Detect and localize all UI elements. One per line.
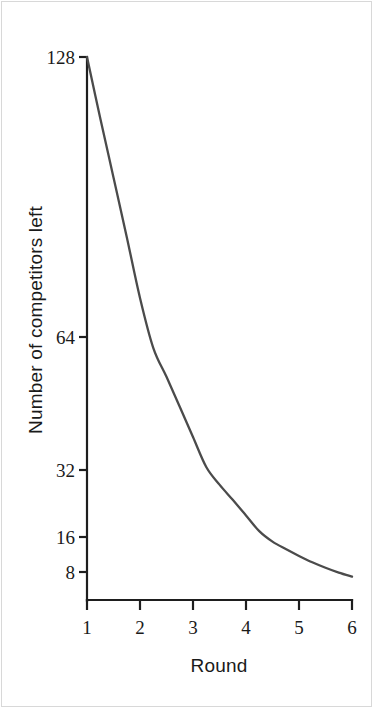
y-tick-label-8: 8 (66, 562, 76, 583)
x-tick-label-5: 5 (294, 617, 304, 638)
x-tick-label-6: 6 (347, 617, 357, 638)
x-tick-label-1: 1 (82, 617, 92, 638)
line-chart-plot: 128 64 32 16 8 1 2 3 4 5 6 Round Number … (0, 0, 374, 709)
y-tick-label-32: 32 (56, 460, 75, 481)
x-tick-label-2: 2 (135, 617, 145, 638)
y-axis-tick-labels: 128 64 32 16 8 (47, 47, 76, 583)
x-axis-title: Round (191, 655, 248, 676)
chart-figure: 128 64 32 16 8 1 2 3 4 5 6 Round Number … (0, 0, 374, 709)
competitors-decay-curve (87, 57, 352, 577)
x-tick-label-3: 3 (188, 617, 198, 638)
y-tick-label-128: 128 (47, 47, 76, 68)
x-axis-tick-labels: 1 2 3 4 5 6 (82, 617, 357, 638)
y-tick-label-64: 64 (56, 327, 76, 348)
x-tick-label-4: 4 (241, 617, 251, 638)
y-tick-label-16: 16 (56, 527, 75, 548)
y-axis-title: Number of competitors left (25, 205, 46, 434)
